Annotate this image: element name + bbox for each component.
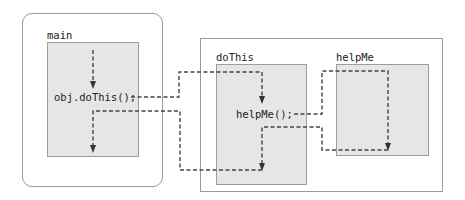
arrowhead-icon xyxy=(90,145,96,153)
return-dothis-arrow xyxy=(93,111,262,170)
control-flow-arrows xyxy=(0,0,465,200)
arrowhead-icon xyxy=(90,81,96,89)
call-dothis-arrow xyxy=(131,72,262,97)
arrowhead-icon xyxy=(259,96,265,104)
call-helpme-arrow xyxy=(294,71,388,143)
return-helpme-arrow xyxy=(262,127,388,163)
